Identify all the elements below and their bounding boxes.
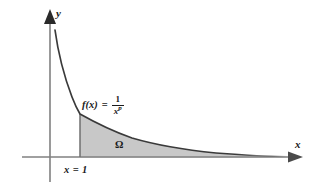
x-equals-one-label: x = 1 [64, 165, 88, 176]
function-name: f(x) [82, 100, 98, 111]
arrow-up-icon [44, 9, 56, 24]
plot-canvas [0, 0, 317, 192]
fraction-denominator: xp [112, 106, 124, 116]
fraction: 1 xp [112, 95, 124, 116]
arrow-right-icon [288, 152, 303, 163]
function-equation-label: f(x) = 1 xp [82, 95, 124, 116]
x-axis-label: x [295, 139, 301, 150]
function-plot-figure: y x f(x) = 1 xp x = 1 Ω [0, 0, 317, 192]
denominator-exponent: p [118, 104, 122, 112]
shaded-region-omega [80, 114, 288, 158]
omega-region-label: Ω [115, 140, 123, 151]
y-axis-label: y [56, 8, 61, 19]
equals-sign: = [101, 100, 109, 111]
